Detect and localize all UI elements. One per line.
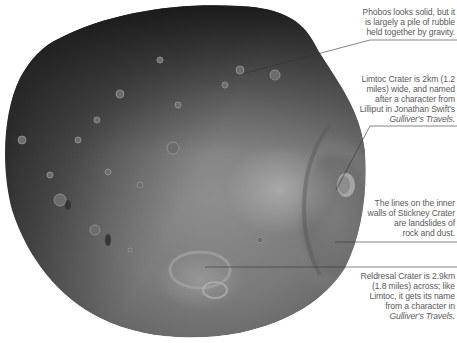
callout-line: from a character in bbox=[361, 301, 455, 311]
callout-line: after a character from bbox=[360, 94, 455, 104]
callout-stickney: The lines on the inner walls of Stickney… bbox=[368, 198, 455, 238]
callout-line: The lines on the inner bbox=[368, 198, 455, 208]
callout-line: held together by gravity. bbox=[363, 27, 455, 37]
book-title: Gulliver's Travels. bbox=[390, 114, 455, 124]
callout-line: rock and dust. bbox=[368, 228, 455, 238]
callout-line: Phobos looks solid, but it bbox=[363, 7, 455, 17]
callout-line: Reldresal Crater is 2.9km bbox=[361, 271, 455, 281]
callout-line-italic: Gulliver's Travels. bbox=[361, 311, 455, 321]
callout-line-italic: Gulliver's Travels. bbox=[360, 114, 455, 124]
callout-line: miles) wide, and named bbox=[360, 84, 455, 94]
book-title: Gulliver's Travels. bbox=[390, 311, 455, 321]
callout-reldresal: Reldresal Crater is 2.9km (1.8 miles) ac… bbox=[361, 271, 455, 321]
callout-line: are landslides of bbox=[368, 218, 455, 228]
callout-limtoc: Limtoc Crater is 2km (1.2 miles) wide, a… bbox=[360, 74, 455, 124]
callout-line: Limtoc Crater is 2km (1.2 bbox=[360, 74, 455, 84]
callout-line: Limtoc, it gets its name bbox=[361, 291, 455, 301]
callout-line: (1.8 miles) across; like bbox=[361, 281, 455, 291]
callout-line: Lilliput in Jonathan Swift's bbox=[360, 104, 455, 114]
callout-line: is largely a pile of rubble bbox=[363, 17, 455, 27]
callout-line: walls of Stickney Crater bbox=[368, 208, 455, 218]
callout-rubble: Phobos looks solid, but it is largely a … bbox=[363, 7, 455, 37]
